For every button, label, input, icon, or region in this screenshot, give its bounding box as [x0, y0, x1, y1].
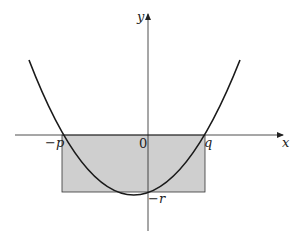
- left-root-label: −p: [45, 136, 64, 149]
- origin-label: 0: [139, 137, 147, 150]
- right-root-label: q: [204, 136, 212, 149]
- y-intercept-label: −r: [148, 192, 165, 205]
- diagram-canvas: [0, 0, 303, 243]
- y-axis-label: y: [137, 10, 144, 23]
- x-axis-label: x: [282, 136, 289, 149]
- parabola-diagram: y x 0 −p q −r: [0, 0, 303, 243]
